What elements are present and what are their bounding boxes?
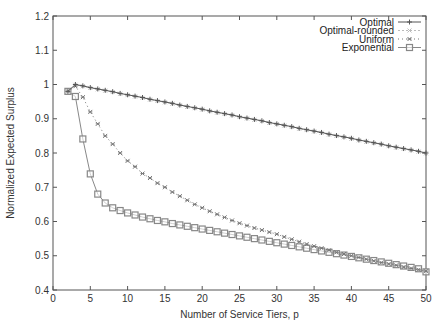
series-layer <box>65 82 429 275</box>
y-axis-ticks: 0.40.50.60.70.80.911.11.2 <box>35 11 426 296</box>
x-tick-label: 50 <box>420 293 432 304</box>
y-tick-label: 0.4 <box>35 285 49 296</box>
x-tick-label: 0 <box>50 293 56 304</box>
legend-swatch-uniform <box>398 37 421 41</box>
x-tick-label: 10 <box>122 293 134 304</box>
y-tick-label: 1.2 <box>35 11 49 22</box>
y-tick-label: 0.9 <box>35 113 49 124</box>
y-tick-label: 0.5 <box>35 250 49 261</box>
legend-swatch-optimal <box>398 20 421 25</box>
legend: Optimal Optimal-rounded Uniform Exponent… <box>320 17 421 54</box>
x-tick-label: 40 <box>346 293 358 304</box>
plot-border <box>53 16 426 290</box>
legend-swatches <box>398 20 421 51</box>
y-tick-label: 1 <box>43 79 49 90</box>
x-tick-label: 25 <box>234 293 246 304</box>
series-uniform <box>66 84 428 273</box>
y-tick-label: 0.7 <box>35 182 49 193</box>
y-tick-label: 0.8 <box>35 148 49 159</box>
line-chart: 05101520253035404550 0.40.50.60.70.80.91… <box>0 0 444 327</box>
x-tick-label: 5 <box>88 293 94 304</box>
x-tick-label: 30 <box>271 293 283 304</box>
y-tick-label: 0.6 <box>35 216 49 227</box>
legend-label-exponential: Exponential <box>342 42 394 53</box>
x-tick-label: 20 <box>197 293 209 304</box>
x-tick-label: 15 <box>159 293 171 304</box>
plot-frame <box>53 16 426 290</box>
x-tick-label: 45 <box>383 293 395 304</box>
legend-swatch-exponential <box>398 45 421 51</box>
y-axis-label: Normalized Expected Surplus <box>5 87 16 219</box>
x-axis-label: Number of Service Tiers, p <box>180 309 299 320</box>
x-tick-label: 35 <box>309 293 321 304</box>
series-optimal <box>65 82 428 156</box>
legend-swatch-optimal-rounded <box>398 29 421 33</box>
y-tick-label: 1.1 <box>35 45 49 56</box>
